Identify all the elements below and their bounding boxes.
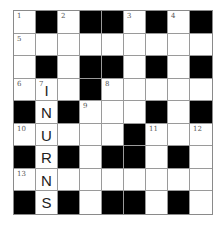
letter-cell[interactable]: 8 xyxy=(102,79,124,102)
letter-cell[interactable] xyxy=(190,79,212,102)
clue-number: 6 xyxy=(17,81,21,88)
letter-cell[interactable] xyxy=(190,146,212,169)
letter-cell[interactable] xyxy=(190,34,212,57)
block-cell xyxy=(146,101,168,124)
letter-cell[interactable]: N xyxy=(36,101,58,124)
letter-cell[interactable]: 7I xyxy=(36,79,58,102)
block-cell xyxy=(102,56,124,79)
entered-letter: U xyxy=(36,128,57,143)
letter-cell[interactable]: 4 xyxy=(168,11,190,34)
letter-cell[interactable] xyxy=(102,124,124,147)
block-cell xyxy=(14,191,36,214)
block-cell xyxy=(80,79,102,102)
letter-cell[interactable] xyxy=(146,34,168,57)
block-cell xyxy=(124,124,146,147)
clue-number: 11 xyxy=(149,126,158,133)
crossword-grid: 1234567I8N910U1112R13NS xyxy=(13,10,213,215)
letter-cell[interactable]: U xyxy=(36,124,58,147)
block-cell xyxy=(36,56,58,79)
letter-cell[interactable] xyxy=(124,34,146,57)
letter-cell[interactable] xyxy=(168,79,190,102)
letter-cell[interactable] xyxy=(58,56,80,79)
clue-number: 3 xyxy=(127,13,131,20)
clue-number: 8 xyxy=(105,81,109,88)
block-cell xyxy=(80,56,102,79)
letter-cell[interactable] xyxy=(124,79,146,102)
block-cell xyxy=(14,101,36,124)
clue-number: 4 xyxy=(171,13,175,20)
letter-cell[interactable] xyxy=(168,124,190,147)
block-cell xyxy=(36,11,58,34)
letter-cell[interactable] xyxy=(168,101,190,124)
block-cell xyxy=(124,191,146,214)
block-cell xyxy=(14,146,36,169)
letter-cell[interactable]: 13 xyxy=(14,169,36,192)
letter-cell[interactable] xyxy=(80,34,102,57)
letter-cell[interactable] xyxy=(80,124,102,147)
block-cell xyxy=(58,101,80,124)
clue-number: 1 xyxy=(17,13,21,20)
block-cell xyxy=(168,146,190,169)
entered-letter: N xyxy=(36,173,57,188)
block-cell xyxy=(102,11,124,34)
block-cell xyxy=(102,191,124,214)
block-cell xyxy=(80,11,102,34)
letter-cell[interactable] xyxy=(190,169,212,192)
block-cell xyxy=(190,56,212,79)
clue-number: 10 xyxy=(17,126,26,133)
block-cell xyxy=(190,11,212,34)
block-cell xyxy=(146,56,168,79)
letter-cell[interactable] xyxy=(124,101,146,124)
letter-cell[interactable]: 10 xyxy=(14,124,36,147)
letter-cell[interactable] xyxy=(102,34,124,57)
clue-number: 2 xyxy=(61,13,65,20)
letter-cell[interactable] xyxy=(14,56,36,79)
letter-cell[interactable]: 12 xyxy=(190,124,212,147)
block-cell xyxy=(168,191,190,214)
letter-cell[interactable] xyxy=(168,34,190,57)
letter-cell[interactable] xyxy=(58,169,80,192)
letter-cell[interactable] xyxy=(146,191,168,214)
letter-cell[interactable] xyxy=(36,34,58,57)
block-cell xyxy=(58,191,80,214)
letter-cell[interactable]: R xyxy=(36,146,58,169)
letter-cell[interactable]: 6 xyxy=(14,79,36,102)
letter-cell[interactable] xyxy=(102,101,124,124)
entered-letter: R xyxy=(36,150,57,165)
letter-cell[interactable]: 1 xyxy=(14,11,36,34)
letter-cell[interactable] xyxy=(58,34,80,57)
entered-letter: I xyxy=(36,83,57,98)
letter-cell[interactable] xyxy=(80,191,102,214)
letter-cell[interactable] xyxy=(124,56,146,79)
letter-cell[interactable] xyxy=(146,79,168,102)
letter-cell[interactable]: 11 xyxy=(146,124,168,147)
letter-cell[interactable]: 2 xyxy=(58,11,80,34)
entered-letter: N xyxy=(36,105,57,120)
letter-cell[interactable]: S xyxy=(36,191,58,214)
clue-number: 9 xyxy=(83,103,87,110)
letter-cell[interactable] xyxy=(58,124,80,147)
clue-number: 5 xyxy=(17,36,21,43)
block-cell xyxy=(190,101,212,124)
letter-cell[interactable]: N xyxy=(36,169,58,192)
letter-cell[interactable] xyxy=(146,169,168,192)
letter-cell[interactable]: 9 xyxy=(80,101,102,124)
block-cell xyxy=(146,11,168,34)
letter-cell[interactable] xyxy=(146,146,168,169)
entered-letter: S xyxy=(36,195,57,210)
letter-cell[interactable] xyxy=(168,169,190,192)
letter-cell[interactable]: 3 xyxy=(124,11,146,34)
letter-cell[interactable] xyxy=(124,169,146,192)
letter-cell[interactable] xyxy=(102,169,124,192)
letter-cell[interactable] xyxy=(58,79,80,102)
block-cell xyxy=(58,146,80,169)
letter-cell[interactable] xyxy=(80,146,102,169)
block-cell xyxy=(102,146,124,169)
letter-cell[interactable] xyxy=(80,169,102,192)
letter-cell[interactable]: 5 xyxy=(14,34,36,57)
clue-number: 13 xyxy=(17,171,26,178)
letter-cell[interactable] xyxy=(168,56,190,79)
letter-cell[interactable] xyxy=(190,191,212,214)
block-cell xyxy=(124,146,146,169)
clue-number: 12 xyxy=(193,126,202,133)
